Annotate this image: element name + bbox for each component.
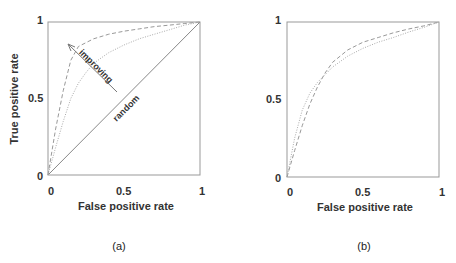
xtick-b-1: 1 — [439, 187, 445, 198]
xlabel-b: False positive rate — [317, 202, 413, 213]
ylabel-a: True positive rate — [9, 53, 20, 144]
ytick-a-0.5: 0.5 — [28, 93, 43, 104]
ytick-a-0: 0 — [37, 171, 43, 182]
ytick-b-0.5: 0.5 — [266, 94, 281, 105]
panel-b: 1 0.5 0 0 0.5 1 False positive rate (b) — [228, 0, 456, 263]
dashed-roc-curve-b — [287, 22, 439, 177]
caption-a: (a) — [112, 241, 125, 252]
xlabel-a: False positive rate — [78, 201, 174, 212]
xtick-b-0.5: 0.5 — [355, 187, 370, 198]
ytick-a-1: 1 — [37, 15, 43, 26]
ytick-b-1: 1 — [275, 15, 281, 26]
xtick-a-0.5: 0.5 — [116, 186, 131, 197]
plot-b-frame — [287, 22, 439, 177]
xtick-a-1: 1 — [199, 186, 205, 197]
plot-b-canvas — [228, 0, 456, 263]
dotted-roc-curve-b — [287, 22, 439, 177]
ytick-b-0: 0 — [275, 173, 281, 184]
caption-b: (b) — [357, 241, 370, 252]
xtick-a-0: 0 — [48, 186, 54, 197]
plot-a-canvas — [0, 0, 228, 263]
panel-a: 1 0.5 0 0 0.5 1 False positive rate True… — [0, 0, 228, 263]
xtick-b-0: 0 — [287, 187, 293, 198]
